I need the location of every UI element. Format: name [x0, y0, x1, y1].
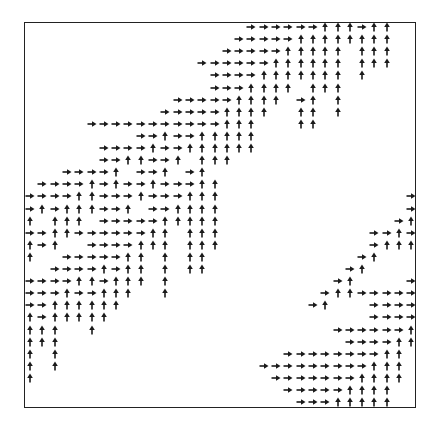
up-arrow-icon: [246, 107, 256, 117]
right-arrow-icon: [308, 361, 318, 371]
up-arrow-icon: [222, 155, 232, 165]
right-arrow-icon: [160, 155, 170, 165]
up-arrow-icon: [308, 58, 318, 68]
right-arrow-icon: [369, 240, 379, 250]
up-arrow-icon: [345, 34, 355, 44]
right-arrow-icon: [382, 300, 392, 310]
right-arrow-icon: [271, 361, 281, 371]
right-arrow-icon: [283, 349, 293, 359]
up-arrow-icon: [50, 300, 60, 310]
right-arrow-icon: [74, 167, 84, 177]
right-arrow-icon: [87, 228, 97, 238]
up-arrow-icon: [136, 276, 146, 286]
up-arrow-icon: [320, 58, 330, 68]
right-arrow-icon: [50, 264, 60, 274]
up-arrow-icon: [333, 70, 343, 80]
up-arrow-icon: [25, 337, 35, 347]
up-arrow-icon: [345, 288, 355, 298]
right-arrow-icon: [345, 325, 355, 335]
up-arrow-icon: [394, 228, 404, 238]
up-arrow-icon: [185, 143, 195, 153]
up-arrow-icon: [197, 143, 207, 153]
right-arrow-icon: [160, 143, 170, 153]
right-arrow-icon: [406, 288, 416, 298]
right-arrow-icon: [345, 264, 355, 274]
right-arrow-icon: [394, 312, 404, 322]
right-arrow-icon: [185, 107, 195, 117]
right-arrow-icon: [271, 34, 281, 44]
right-arrow-icon: [283, 373, 293, 383]
up-arrow-icon: [369, 34, 379, 44]
right-arrow-icon: [382, 337, 392, 347]
right-arrow-icon: [345, 361, 355, 371]
up-arrow-icon: [87, 276, 97, 286]
up-arrow-icon: [382, 361, 392, 371]
right-arrow-icon: [406, 300, 416, 310]
right-arrow-icon: [296, 349, 306, 359]
right-arrow-icon: [37, 228, 47, 238]
up-arrow-icon: [123, 155, 133, 165]
right-arrow-icon: [320, 397, 330, 407]
right-arrow-icon: [283, 22, 293, 32]
right-arrow-icon: [406, 312, 416, 322]
up-arrow-icon: [210, 204, 220, 214]
right-arrow-icon: [246, 22, 256, 32]
up-arrow-icon: [160, 288, 170, 298]
up-arrow-icon: [357, 264, 367, 274]
right-arrow-icon: [320, 349, 330, 359]
right-arrow-icon: [25, 300, 35, 310]
up-arrow-icon: [99, 288, 109, 298]
right-arrow-icon: [222, 58, 232, 68]
right-arrow-icon: [62, 167, 72, 177]
up-arrow-icon: [234, 119, 244, 129]
right-arrow-icon: [234, 58, 244, 68]
up-arrow-icon: [160, 167, 170, 177]
up-arrow-icon: [37, 204, 47, 214]
right-arrow-icon: [357, 252, 367, 262]
right-arrow-icon: [259, 34, 269, 44]
right-arrow-icon: [234, 83, 244, 93]
up-arrow-icon: [357, 46, 367, 56]
right-arrow-icon: [99, 204, 109, 214]
up-arrow-icon: [74, 276, 84, 286]
right-arrow-icon: [160, 107, 170, 117]
up-arrow-icon: [25, 312, 35, 322]
up-arrow-icon: [333, 58, 343, 68]
right-arrow-icon: [394, 300, 404, 310]
right-arrow-icon: [296, 385, 306, 395]
right-arrow-icon: [99, 191, 109, 201]
right-arrow-icon: [406, 276, 416, 286]
right-arrow-icon: [111, 155, 121, 165]
right-arrow-icon: [37, 312, 47, 322]
right-arrow-icon: [173, 143, 183, 153]
up-arrow-icon: [345, 397, 355, 407]
up-arrow-icon: [173, 155, 183, 165]
right-arrow-icon: [308, 22, 318, 32]
right-arrow-icon: [234, 46, 244, 56]
up-arrow-icon: [136, 252, 146, 262]
up-arrow-icon: [185, 264, 195, 274]
up-arrow-icon: [210, 228, 220, 238]
up-arrow-icon: [210, 155, 220, 165]
right-arrow-icon: [160, 179, 170, 189]
right-arrow-icon: [308, 397, 318, 407]
up-arrow-icon: [222, 131, 232, 141]
right-arrow-icon: [394, 288, 404, 298]
right-arrow-icon: [259, 46, 269, 56]
right-arrow-icon: [37, 300, 47, 310]
right-arrow-icon: [160, 204, 170, 214]
up-arrow-icon: [308, 70, 318, 80]
up-arrow-icon: [382, 349, 392, 359]
right-arrow-icon: [99, 119, 109, 129]
up-arrow-icon: [357, 70, 367, 80]
right-arrow-icon: [369, 228, 379, 238]
right-arrow-icon: [123, 191, 133, 201]
right-arrow-icon: [136, 119, 146, 129]
up-arrow-icon: [333, 397, 343, 407]
up-arrow-icon: [357, 34, 367, 44]
right-arrow-icon: [357, 325, 367, 335]
up-arrow-icon: [111, 179, 121, 189]
up-arrow-icon: [320, 70, 330, 80]
right-arrow-icon: [210, 83, 220, 93]
right-arrow-icon: [25, 276, 35, 286]
